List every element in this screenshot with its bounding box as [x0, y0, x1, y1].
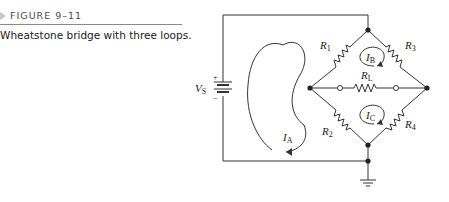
resistor-r4	[386, 110, 404, 130]
wire-r1-top	[350, 30, 368, 47]
wire-r3-top	[368, 30, 386, 47]
top-wire	[223, 15, 368, 82]
label-ia: IA	[282, 131, 293, 145]
resistor-r3	[386, 45, 402, 67]
label-r2: R2	[321, 125, 333, 139]
source-minus: −	[213, 94, 218, 103]
resistor-r2	[334, 110, 350, 130]
node-right	[424, 85, 429, 90]
label-r1: R1	[319, 39, 331, 53]
label-r3: R3	[404, 39, 416, 53]
loop-ia-left	[248, 43, 283, 150]
terminal-right	[394, 86, 399, 91]
resistor-r1	[334, 45, 350, 67]
resistor-rl	[343, 84, 393, 92]
wheatstone-bridge-diagram: + − VS R1 R2 R3 R4 RL IA IB IC	[0, 0, 449, 202]
source-label: VS	[195, 82, 206, 96]
label-r4: R4	[404, 118, 416, 132]
label-rl: RL	[360, 69, 373, 83]
label-ib: IB	[365, 51, 375, 65]
battery-icon	[214, 82, 232, 92]
label-ic: IC	[365, 109, 375, 123]
ground-icon	[360, 180, 376, 186]
node-ground	[365, 158, 370, 163]
node-left	[307, 85, 312, 90]
source-plus: +	[213, 73, 218, 82]
node-top	[365, 27, 370, 32]
node-bottom	[365, 142, 370, 147]
arrow-ia-icon	[286, 148, 292, 156]
terminal-left	[338, 86, 343, 91]
